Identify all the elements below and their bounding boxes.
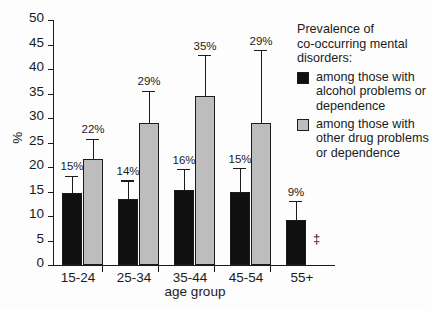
errorcap-gray-45-54 bbox=[254, 50, 267, 51]
x-axis-line bbox=[53, 265, 335, 266]
bar-gray-45-54[interactable] bbox=[251, 123, 271, 265]
legend-title: Prevalence of co-occurring mental disord… bbox=[297, 22, 431, 66]
y-tick-label-30: 30 bbox=[29, 109, 44, 123]
plot-area: 0 5 10 15 20 25 30 35 40 45 50 15% 22% 1… bbox=[54, 20, 335, 265]
bar-gray-15-24[interactable] bbox=[83, 159, 103, 265]
legend-item-alcohol-line-2: alcohol problems or bbox=[316, 84, 431, 99]
legend-item-other-drug-line-3: or dependence bbox=[316, 146, 431, 161]
errorbar-black-55plus bbox=[296, 202, 297, 220]
errorbar-gray-15-24 bbox=[93, 140, 94, 159]
legend-title-line-3: disorders: bbox=[297, 51, 431, 66]
errorcap-gray-35-44 bbox=[198, 55, 211, 56]
bar-black-55plus[interactable] bbox=[286, 220, 306, 265]
errorbar-gray-35-44 bbox=[205, 56, 206, 96]
chart-figure: % 0 5 10 15 20 25 30 35 40 45 50 15% 22% bbox=[0, 0, 431, 310]
bar-group-15-24: 15% 22% 15-24 bbox=[54, 20, 102, 265]
errorcap-gray-25-34 bbox=[142, 91, 155, 92]
x-tick-sep-2 bbox=[158, 265, 159, 272]
legend-title-line-1: Prevalence of bbox=[297, 22, 431, 37]
y-tick-label-35: 35 bbox=[29, 85, 44, 99]
legend-item-other-drug-line-2: other drug problems bbox=[316, 131, 431, 146]
errorcap-black-55plus bbox=[289, 201, 302, 202]
legend-swatch-black-icon bbox=[297, 72, 309, 84]
legend-item-alcohol-line-1: among those with bbox=[316, 70, 431, 85]
bar-group-25-34: 14% 29% 25-34 bbox=[110, 20, 158, 265]
legend-item-other-drug[interactable]: among those with other drug problems or … bbox=[297, 117, 431, 161]
y-tick-label-45: 45 bbox=[29, 36, 44, 50]
y-tick-label-15: 15 bbox=[29, 183, 44, 197]
x-tick-sep-1 bbox=[102, 265, 103, 272]
bar-black-25-34[interactable] bbox=[118, 199, 138, 265]
y-tick-label-50: 50 bbox=[29, 11, 44, 25]
y-tick-label-10: 10 bbox=[29, 207, 44, 221]
y-tick-label-5: 5 bbox=[36, 232, 44, 246]
errorbar-black-25-34 bbox=[128, 182, 129, 199]
bar-group-35-44: 16% 35% 35-44 bbox=[166, 20, 214, 265]
errorbar-gray-25-34 bbox=[149, 92, 150, 123]
x-tick-sep-4 bbox=[270, 265, 271, 272]
bar-group-45-54: 15% 29% 45-54 bbox=[222, 20, 270, 265]
y-tick-label-40: 40 bbox=[29, 60, 44, 74]
errorbar-gray-45-54 bbox=[261, 51, 262, 123]
legend-swatch-gray-icon bbox=[297, 119, 309, 131]
bar-label-gray-15-24: 22% bbox=[75, 124, 111, 136]
x-label-15-24: 15-24 bbox=[54, 271, 102, 285]
x-tick-sep-3 bbox=[214, 265, 215, 272]
bar-label-gray-45-54: 29% bbox=[243, 36, 279, 48]
bar-gray-25-34[interactable] bbox=[139, 123, 159, 265]
errorbar-black-15-24 bbox=[72, 177, 73, 193]
legend-item-other-drug-line-1: among those with bbox=[316, 117, 431, 132]
y-tick-label-25: 25 bbox=[29, 134, 44, 148]
legend-item-alcohol[interactable]: among those with alcohol problems or dep… bbox=[297, 70, 431, 114]
bar-black-45-54[interactable] bbox=[230, 192, 250, 266]
legend: Prevalence of co-occurring mental disord… bbox=[297, 22, 431, 163]
x-label-55plus: 55+ bbox=[278, 271, 326, 285]
bar-label-black-55plus: 9% bbox=[278, 187, 314, 199]
bar-gray-35-44[interactable] bbox=[195, 96, 215, 265]
errorcap-black-35-44 bbox=[177, 169, 190, 170]
errorbar-black-35-44 bbox=[184, 170, 185, 189]
bar-black-35-44[interactable] bbox=[174, 190, 194, 266]
x-label-25-34: 25-34 bbox=[110, 271, 158, 285]
legend-title-line-2: co-occurring mental bbox=[297, 37, 431, 52]
y-tick-label-0: 0 bbox=[36, 256, 44, 270]
x-axis-title: age group bbox=[0, 285, 390, 299]
errorcap-black-25-34 bbox=[121, 180, 134, 181]
suppressed-data-marker-55plus: ‡ bbox=[313, 232, 320, 245]
legend-item-alcohol-line-3: dependence bbox=[316, 99, 431, 114]
errorcap-black-45-54 bbox=[233, 168, 246, 169]
errorcap-black-15-24 bbox=[65, 176, 78, 177]
errorbar-black-45-54 bbox=[240, 169, 241, 191]
bar-label-gray-25-34: 29% bbox=[131, 76, 167, 88]
y-tick-0: 0 bbox=[48, 265, 54, 266]
y-axis-title: % bbox=[11, 132, 25, 144]
bar-label-gray-35-44: 35% bbox=[187, 41, 223, 53]
bar-black-15-24[interactable] bbox=[62, 193, 82, 266]
y-tick-label-20: 20 bbox=[29, 158, 44, 172]
x-label-45-54: 45-54 bbox=[222, 271, 270, 285]
x-label-35-44: 35-44 bbox=[166, 271, 214, 285]
errorcap-gray-15-24 bbox=[86, 139, 99, 140]
